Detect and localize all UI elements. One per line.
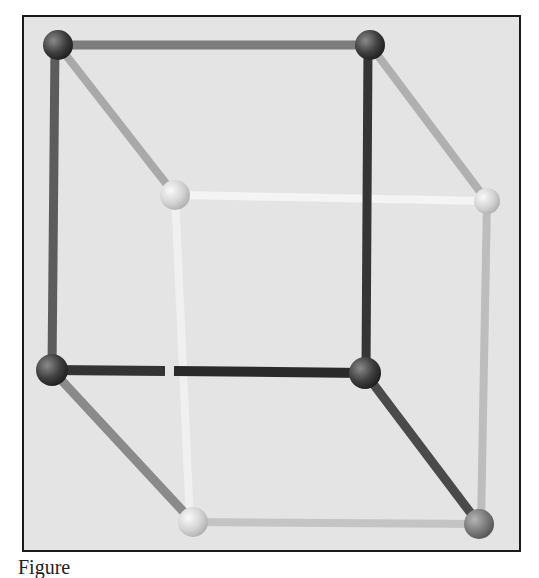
edge-top-right-diagonal <box>370 45 487 201</box>
vertex-top-back-right <box>355 30 385 60</box>
edge-front-bottom-left-segment <box>52 370 165 371</box>
edge-back-right-vertical <box>481 201 487 524</box>
vertex-bottom-front-right <box>349 357 381 389</box>
vertex-bottom-front-left <box>36 354 68 386</box>
edge-front-right-vertical <box>366 45 368 373</box>
edge-bottom-right-diagonal <box>365 373 479 524</box>
edge-front-bottom-right-segment <box>174 371 365 373</box>
vertex-mid-back-right <box>474 188 500 214</box>
vertex-top-back-left <box>43 30 73 60</box>
vertex-bottom-back-left <box>178 507 208 537</box>
edge-mid-back-horizontal <box>175 195 487 201</box>
edge-front-left-vertical <box>52 45 55 370</box>
cube-edges <box>52 45 487 524</box>
vertex-mid-back-left <box>160 180 190 210</box>
edge-top-left-diagonal <box>58 45 175 195</box>
edge-back-left-vertical <box>175 195 190 522</box>
figure-caption: Figure <box>18 557 70 577</box>
edge-bottom-left-diagonal <box>52 370 193 522</box>
vertex-bottom-back-right <box>464 509 494 539</box>
edge-bottom-back-horizontal <box>193 522 479 524</box>
